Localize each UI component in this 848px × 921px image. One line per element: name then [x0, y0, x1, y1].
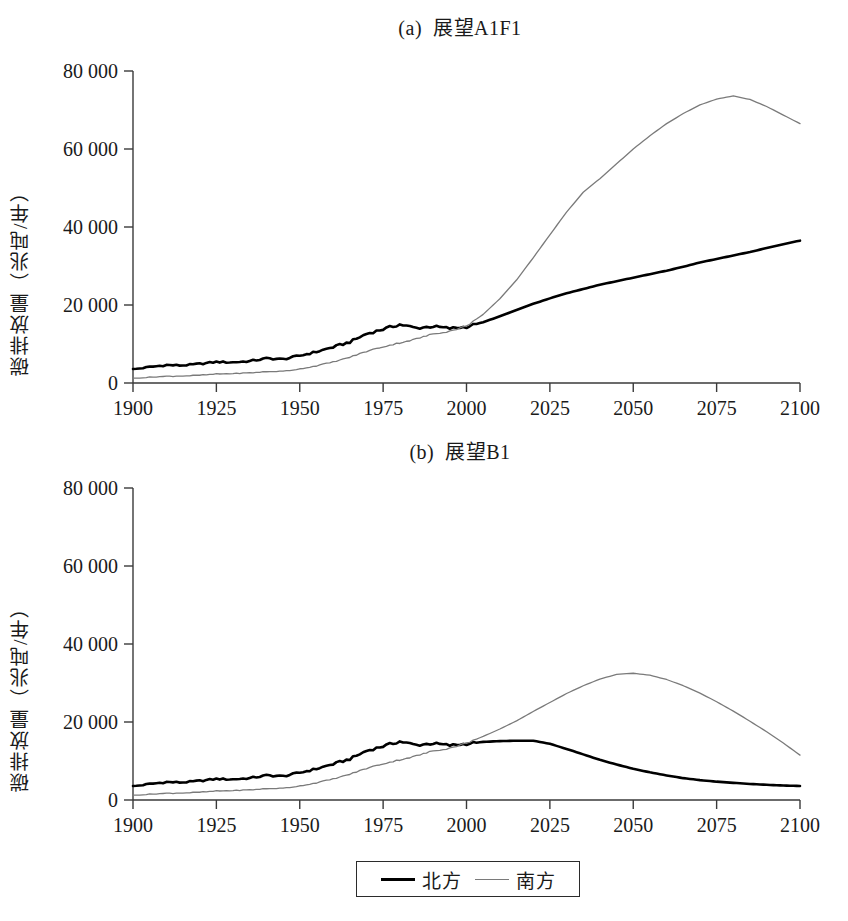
- legend-line-north-icon: [381, 878, 415, 881]
- y-tick-label-60000: 60 000: [63, 138, 118, 160]
- y-tick-label-20000: 20 000: [63, 711, 118, 733]
- x-tick-label-2050: 2050: [613, 814, 653, 836]
- x-tick-label-2075: 2075: [697, 814, 737, 836]
- series-line-south: [133, 673, 800, 795]
- x-tick-label-1950: 1950: [280, 397, 320, 419]
- x-tick-label-1950: 1950: [280, 814, 320, 836]
- panel-a-plot: 020 00040 00060 00080 000190019251950197…: [0, 0, 848, 432]
- x-tick-label-2025: 2025: [530, 814, 570, 836]
- y-tick-label-40000: 40 000: [63, 216, 118, 238]
- x-tick-label-2000: 2000: [447, 397, 487, 419]
- x-tick-label-2025: 2025: [530, 397, 570, 419]
- series-line-south: [133, 96, 800, 378]
- legend-label-south: 南方: [516, 866, 555, 893]
- x-tick-label-2050: 2050: [613, 397, 653, 419]
- series-line-north: [133, 741, 800, 786]
- legend-box: 北方 南方: [356, 861, 580, 897]
- x-tick-label-2100: 2100: [780, 814, 820, 836]
- figure-root: (a) 展望A1F1 碳排放量（兆吨/年） 020 00040 00060 00…: [0, 0, 848, 921]
- y-tick-label-60000: 60 000: [63, 555, 118, 577]
- y-tick-label-80000: 80 000: [63, 477, 118, 499]
- legend-entry-north: 北方: [381, 866, 461, 893]
- panel-b-plot: 020 00040 00060 00080 000190019251950197…: [0, 424, 848, 842]
- x-tick-label-1900: 1900: [113, 814, 153, 836]
- x-tick-label-2100: 2100: [780, 397, 820, 419]
- y-tick-label-20000: 20 000: [63, 294, 118, 316]
- legend-label-north: 北方: [422, 866, 461, 893]
- legend-line-south-icon: [475, 879, 509, 880]
- x-tick-label-2075: 2075: [697, 397, 737, 419]
- series-line-north: [133, 241, 800, 369]
- x-tick-label-1925: 1925: [196, 814, 236, 836]
- x-tick-label-1925: 1925: [196, 397, 236, 419]
- y-tick-label-80000: 80 000: [63, 60, 118, 82]
- x-tick-label-1900: 1900: [113, 397, 153, 419]
- x-tick-label-1975: 1975: [363, 397, 403, 419]
- legend-entry-south: 南方: [475, 866, 555, 893]
- chart-panel-a: (a) 展望A1F1 碳排放量（兆吨/年） 020 00040 00060 00…: [0, 0, 848, 432]
- chart-panel-b: (b) 展望B1 碳排放量（兆吨/年） 020 00040 00060 0008…: [0, 424, 848, 842]
- x-tick-label-2000: 2000: [447, 814, 487, 836]
- y-tick-label-0: 0: [108, 372, 118, 394]
- y-tick-label-40000: 40 000: [63, 633, 118, 655]
- x-tick-label-1975: 1975: [363, 814, 403, 836]
- y-tick-label-0: 0: [108, 789, 118, 811]
